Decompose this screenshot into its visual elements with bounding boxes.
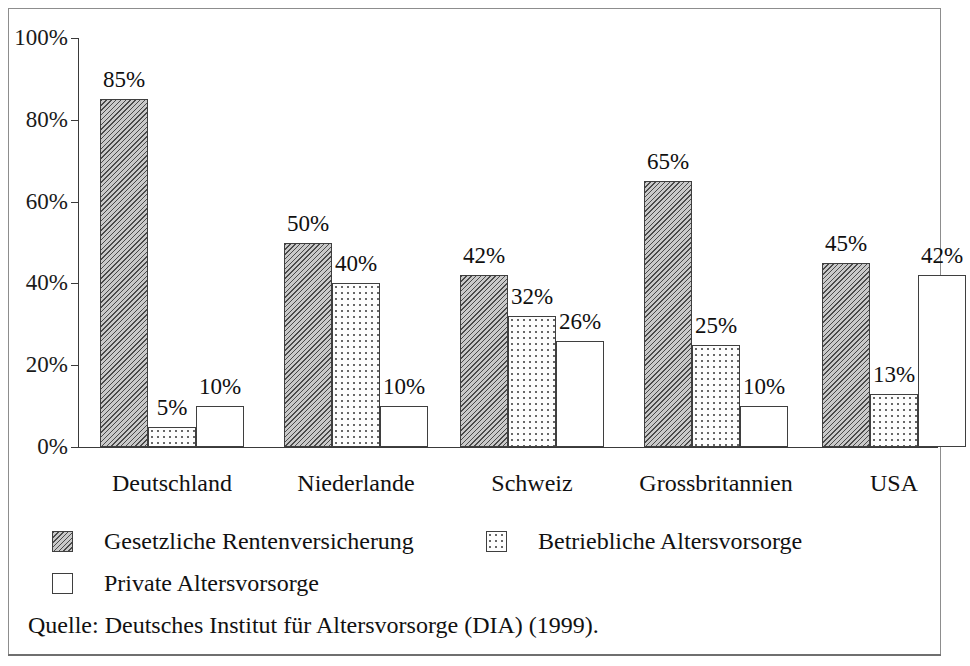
legend-label: Private Altersvorsorge (104, 570, 319, 596)
y-axis-tick-label: 60% (0, 190, 80, 213)
bar-value-label: 26% (550, 310, 610, 333)
bar-value-label: 25% (686, 314, 746, 337)
y-axis-tick-label: 20% (0, 353, 80, 376)
legend-item[interactable]: Betriebliche Altersvorsorge (486, 528, 802, 554)
bar-value-label: 40% (326, 252, 386, 275)
y-axis-tick-label: 80% (0, 108, 80, 131)
bar (918, 275, 966, 447)
bar-value-label: 10% (374, 375, 434, 398)
plot-area: 85%5%10%50%40%10%42%32%26%65%25%10%45%13… (78, 38, 936, 447)
bar-value-label: 5% (142, 396, 202, 419)
x-axis-line (78, 447, 938, 448)
bar-value-label: 10% (190, 375, 250, 398)
bar (196, 406, 244, 447)
bar (148, 427, 196, 447)
bar (100, 99, 148, 447)
figure-bottom-rule (8, 654, 941, 656)
bar-value-label: 50% (278, 212, 338, 235)
y-axis-tick-label: 0% (0, 435, 80, 458)
x-axis-label-usa: USA (764, 470, 970, 496)
bar (332, 283, 380, 447)
bar (380, 406, 428, 447)
bar-value-label: 45% (816, 232, 876, 255)
bar-value-label: 32% (502, 285, 562, 308)
legend-swatch-dots-icon (486, 531, 507, 552)
legend-item[interactable]: Gesetzliche Rentenversicherung (52, 528, 414, 554)
y-axis-tick-label: 40% (0, 271, 80, 294)
legend-swatch-hatch-icon (52, 531, 73, 552)
bar-value-label: 42% (912, 244, 970, 267)
y-axis-tick-label: 100% (0, 26, 80, 49)
bar (284, 243, 332, 448)
bar-value-label: 10% (734, 375, 794, 398)
bar (556, 341, 604, 447)
bar (508, 316, 556, 447)
bar (822, 263, 870, 447)
bar-value-label: 42% (454, 244, 514, 267)
bar (740, 406, 788, 447)
bar (460, 275, 508, 447)
source-note: Quelle: Deutsches Institut für Altersvor… (28, 612, 599, 638)
legend-label: Gesetzliche Rentenversicherung (104, 528, 414, 554)
bar-value-label: 85% (94, 68, 154, 91)
bar (644, 181, 692, 447)
bar-value-label: 65% (638, 150, 698, 173)
legend-label: Betriebliche Altersvorsorge (538, 528, 802, 554)
bar-value-label: 13% (864, 363, 924, 386)
legend-item[interactable]: Private Altersvorsorge (52, 570, 319, 596)
bar (870, 394, 918, 447)
legend-swatch-plain-icon (52, 573, 73, 594)
bar (692, 345, 740, 447)
